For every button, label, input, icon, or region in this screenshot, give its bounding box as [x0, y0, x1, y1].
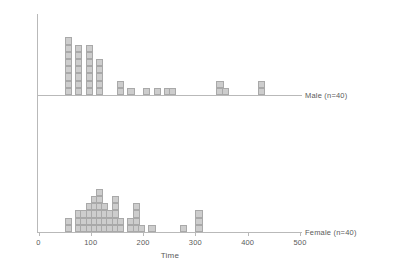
histogram-block: [101, 203, 108, 210]
x-axis-title: Time: [0, 251, 340, 260]
x-axis-tick: [91, 233, 92, 236]
histogram-block: [117, 225, 124, 232]
x-axis-tick-label: 500: [285, 238, 315, 247]
histogram-block: [65, 218, 72, 225]
histogram-block: [222, 88, 229, 95]
histogram-block: [127, 88, 134, 95]
histogram-block: [86, 52, 93, 59]
x-axis-tick-label: 100: [76, 238, 106, 247]
histogram-block: [133, 203, 140, 210]
histogram-block: [65, 66, 72, 73]
histogram-block: [75, 52, 82, 59]
histogram-block: [96, 88, 103, 95]
histogram-block: [75, 73, 82, 80]
histogram-block: [75, 66, 82, 73]
histogram-block: [65, 88, 72, 95]
x-axis-tick-label: 0: [24, 238, 54, 247]
histogram-block: [65, 45, 72, 52]
x-axis-tick-label: 200: [128, 238, 158, 247]
x-axis-tick: [248, 233, 249, 236]
histogram-block: [96, 189, 103, 196]
histogram-block: [143, 88, 150, 95]
histogram-block: [75, 59, 82, 66]
x-axis-tick: [195, 233, 196, 236]
histogram-block: [75, 81, 82, 88]
histogram-block: [258, 88, 265, 95]
histogram-block: [86, 45, 93, 52]
histogram-block: [75, 88, 82, 95]
histogram-block: [86, 73, 93, 80]
histogram-block: [195, 225, 202, 232]
histogram-block: [86, 88, 93, 95]
histogram-block: [195, 210, 202, 217]
histogram-block: [65, 59, 72, 66]
histogram-block: [117, 88, 124, 95]
histogram-block: [258, 81, 265, 88]
histogram-block: [117, 81, 124, 88]
y-axis-line: [37, 14, 38, 232]
histogram-block: [148, 225, 155, 232]
histogram-block: [96, 59, 103, 66]
histogram-block: [65, 225, 72, 232]
histogram-block: [195, 218, 202, 225]
x-axis-tick: [300, 233, 301, 236]
histogram-block: [65, 52, 72, 59]
histogram-block: [117, 218, 124, 225]
histogram-block: [112, 203, 119, 210]
histogram-block: [112, 196, 119, 203]
histogram-block: [65, 37, 72, 44]
x-axis-tick-label: 300: [180, 238, 210, 247]
histogram-block: [86, 66, 93, 73]
x-axis-tick-label: 400: [233, 238, 263, 247]
histogram-block: [96, 66, 103, 73]
x-axis-tick: [39, 233, 40, 236]
histogram-block: [133, 218, 140, 225]
histogram-block: [180, 225, 187, 232]
male-baseline-axis: [37, 95, 302, 96]
histogram-block: [96, 81, 103, 88]
female-baseline-axis: [37, 232, 302, 233]
series-label-male: Male (n=40): [305, 91, 347, 100]
histogram-block: [154, 88, 161, 95]
histogram-block: [75, 45, 82, 52]
histogram-block: [216, 81, 223, 88]
histogram-block: [86, 59, 93, 66]
histogram-block: [133, 210, 140, 217]
histogram-block: [112, 210, 119, 217]
histogram-chart: 0100200300400500 Time Male (n=40) Female…: [0, 0, 394, 273]
series-label-female: Female (n=40): [305, 228, 357, 237]
histogram-block: [96, 196, 103, 203]
histogram-block: [96, 73, 103, 80]
histogram-block: [65, 81, 72, 88]
histogram-block: [138, 225, 145, 232]
histogram-block: [65, 73, 72, 80]
histogram-block: [86, 81, 93, 88]
histogram-block: [169, 88, 176, 95]
x-axis-tick: [143, 233, 144, 236]
